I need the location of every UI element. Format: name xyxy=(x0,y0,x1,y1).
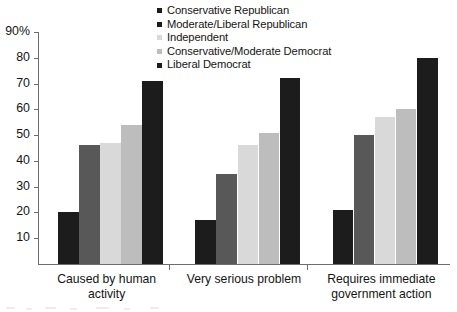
x-axis-line xyxy=(38,264,450,265)
x-axis-group-tick xyxy=(169,264,170,270)
bar xyxy=(280,78,301,264)
bar xyxy=(417,58,438,264)
y-axis-tick-label: 60 xyxy=(16,101,30,115)
legend-swatch-icon xyxy=(157,8,162,13)
bar xyxy=(142,81,163,264)
y-axis-tick: 70 xyxy=(34,84,39,85)
y-axis-tick: 60 xyxy=(34,109,39,110)
y-axis-tick: 90% xyxy=(34,32,39,33)
x-axis-group-label-line2: government action xyxy=(313,287,450,302)
y-axis-tick-label: 30 xyxy=(16,179,30,193)
x-axis-group-label: Very serious problem xyxy=(175,272,312,287)
y-axis-tick-label: 50 xyxy=(16,127,30,141)
y-axis-tick-label: 90% xyxy=(5,24,30,38)
y-axis-tick: 80 xyxy=(34,58,39,59)
y-axis-tick: 40 xyxy=(34,161,39,162)
legend-item-label: Moderate/Liberal Republican xyxy=(167,18,307,32)
bar xyxy=(100,143,121,264)
bar xyxy=(333,210,354,264)
bar xyxy=(259,133,280,264)
x-axis-group-label-line1: Very serious problem xyxy=(175,272,312,287)
bar xyxy=(58,212,79,264)
legend-swatch-icon xyxy=(157,22,162,27)
x-axis-group-label-line1: Requires immediate xyxy=(313,272,450,287)
bar xyxy=(238,145,259,264)
legend-item-label: Conservative Republican xyxy=(167,4,289,18)
bar-chart: Conservative RepublicanModerate/Liberal … xyxy=(0,0,457,312)
bar xyxy=(121,125,142,264)
y-axis-line xyxy=(38,32,39,264)
x-axis-group-tick xyxy=(307,264,308,270)
y-axis-tick: 10 xyxy=(34,238,39,239)
bar xyxy=(354,135,375,264)
bar xyxy=(79,145,100,264)
y-axis-tick-label: 80 xyxy=(16,50,30,64)
bar xyxy=(396,109,417,264)
y-axis-tick: 30 xyxy=(34,187,39,188)
y-axis-tick-label: 40 xyxy=(16,153,30,167)
y-axis-tick-label: 20 xyxy=(16,204,30,218)
bar xyxy=(216,174,237,264)
x-axis-group-label: Requires immediategovernment action xyxy=(313,272,450,301)
y-axis-tick: 20 xyxy=(34,212,39,213)
bar xyxy=(195,220,216,264)
legend-item: Moderate/Liberal Republican xyxy=(157,18,457,32)
plot-area: 90%8070605040302010Caused by human activ… xyxy=(38,32,450,264)
bar xyxy=(375,117,396,264)
x-axis-group-label-line1: Caused by human activity xyxy=(38,272,175,301)
x-axis-group-label: Caused by human activity xyxy=(38,272,175,301)
legend-item: Conservative Republican xyxy=(157,4,457,18)
y-axis-tick: 50 xyxy=(34,135,39,136)
y-axis-tick-label: 10 xyxy=(16,230,30,244)
y-axis-tick-label: 70 xyxy=(16,76,30,90)
